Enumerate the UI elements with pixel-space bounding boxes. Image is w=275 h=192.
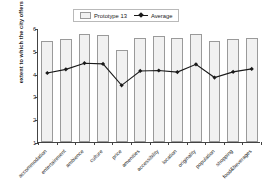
legend-label-average: Average bbox=[151, 13, 173, 19]
x-axis-label: price bbox=[76, 148, 123, 192]
x-axis-label: ambience bbox=[39, 148, 86, 192]
legend-bar-swatch-icon bbox=[80, 12, 91, 19]
average-data-point bbox=[250, 67, 254, 71]
y-axis-title: extent to which the city offers attribut… bbox=[15, 0, 27, 90]
x-axis-label: location bbox=[131, 148, 178, 192]
legend-item-average: Average bbox=[134, 12, 173, 19]
average-data-point bbox=[231, 70, 235, 74]
x-axis-label: culture bbox=[57, 148, 104, 192]
line-series-average bbox=[38, 29, 261, 143]
legend-line-swatch-icon bbox=[134, 12, 148, 19]
average-line-path bbox=[47, 63, 251, 85]
average-data-point bbox=[175, 70, 179, 74]
plot-inner: 123456 bbox=[38, 29, 260, 142]
x-axis-label: accessibility bbox=[113, 148, 160, 192]
legend-item-prototype-13: Prototype 13 bbox=[80, 12, 127, 19]
x-axis-label: accommodation bbox=[1, 148, 48, 192]
x-axis-label: food&beverages bbox=[206, 148, 253, 192]
average-data-point bbox=[157, 68, 161, 72]
x-axis-label: population bbox=[169, 148, 216, 192]
chart-container: extent to which the city offers attribut… bbox=[0, 0, 275, 192]
chart-legend: Prototype 13 Average bbox=[73, 9, 179, 22]
average-data-point bbox=[82, 61, 86, 65]
average-data-point bbox=[64, 67, 68, 71]
x-axis-tick-mark bbox=[261, 142, 262, 145]
x-axis-label: amenities bbox=[94, 148, 141, 192]
legend-label-prototype-13: Prototype 13 bbox=[94, 13, 127, 19]
x-axis-label: originality bbox=[150, 148, 197, 192]
plot-area: 123456 bbox=[37, 29, 260, 143]
average-data-point bbox=[45, 71, 49, 75]
x-axis-label: shopping bbox=[187, 148, 234, 192]
x-axis-label: entertainment bbox=[20, 148, 67, 192]
